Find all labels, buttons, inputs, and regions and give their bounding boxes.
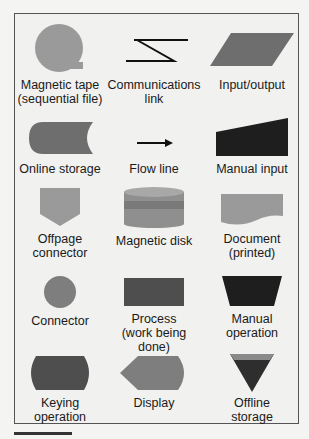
manual-input-icon bbox=[214, 118, 290, 158]
label: operation bbox=[204, 326, 300, 340]
label: storage bbox=[204, 410, 300, 424]
label: Manual bbox=[204, 312, 300, 326]
label: Magnetic disk bbox=[106, 234, 202, 248]
symbol-communications-link: Communicationslink bbox=[106, 22, 202, 106]
symbol-magnetic-tape: Magnetic tape(sequential file) bbox=[12, 22, 108, 106]
symbol-offline-storage: Offlinestorage bbox=[204, 352, 300, 424]
symbol-keying-operation: Keyingoperation bbox=[12, 354, 108, 424]
label: Document bbox=[204, 232, 300, 246]
label: Offpage bbox=[12, 232, 108, 246]
magnetic-disk-icon bbox=[122, 186, 186, 230]
label: Flow line bbox=[106, 162, 202, 176]
page-marker bbox=[14, 432, 72, 435]
label: Keying bbox=[12, 396, 108, 410]
online-storage-icon bbox=[25, 118, 95, 158]
label: Input/output bbox=[204, 78, 300, 92]
flow-line-icon bbox=[129, 118, 179, 158]
magnetic-tape-icon bbox=[30, 22, 90, 74]
connector-icon bbox=[40, 274, 80, 310]
label: Manual input bbox=[204, 162, 300, 176]
label: Online storage bbox=[12, 162, 108, 176]
symbol-process: Process(work being done) bbox=[106, 278, 202, 354]
label: link bbox=[106, 92, 202, 106]
symbol-flow-line: Flow line bbox=[106, 118, 202, 176]
display-icon bbox=[118, 354, 190, 392]
label: Communications bbox=[106, 78, 202, 92]
label: operation bbox=[12, 410, 108, 424]
label: Connector bbox=[12, 314, 108, 328]
label: Display bbox=[106, 396, 202, 410]
symbol-offpage-connector: Offpageconnector bbox=[12, 188, 108, 260]
label: (work being done) bbox=[106, 326, 202, 354]
symbol-input-output: Input/output bbox=[204, 22, 300, 92]
label: (sequential file) bbox=[12, 92, 108, 106]
offpage-connector-icon bbox=[38, 188, 82, 228]
input-output-icon bbox=[210, 22, 294, 74]
offline-storage-icon bbox=[228, 352, 276, 392]
label: (printed) bbox=[204, 246, 300, 260]
manual-operation-icon bbox=[220, 276, 284, 308]
label: connector bbox=[12, 246, 108, 260]
symbol-online-storage: Online storage bbox=[12, 118, 108, 176]
label: Process bbox=[106, 312, 202, 326]
symbol-connector: Connector bbox=[12, 274, 108, 328]
document-icon bbox=[219, 192, 285, 228]
communications-link-icon bbox=[114, 22, 194, 74]
symbol-document: Document(printed) bbox=[204, 192, 300, 260]
symbol-manual-operation: Manualoperation bbox=[204, 276, 300, 340]
symbol-magnetic-disk: Magnetic disk bbox=[106, 186, 202, 248]
label: Magnetic tape bbox=[12, 78, 108, 92]
label: Offline bbox=[204, 396, 300, 410]
keying-operation-icon bbox=[24, 354, 96, 392]
process-icon bbox=[122, 278, 186, 308]
symbol-display: Display bbox=[106, 354, 202, 410]
symbol-manual-input: Manual input bbox=[204, 118, 300, 176]
